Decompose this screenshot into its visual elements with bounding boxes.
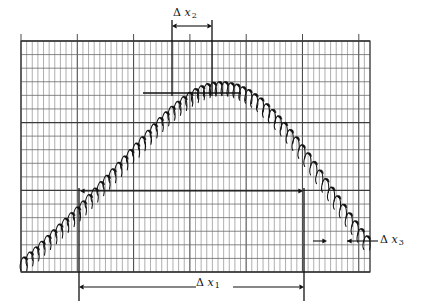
var-symbol-x1: x [207,276,214,289]
delta-symbol-x1: Δ [196,276,204,289]
var-symbol-x3: x [391,233,398,246]
measurement-annotations [79,20,378,301]
chart-area [0,0,426,306]
var-symbol-x2: x [184,6,191,19]
figure-root: Δx2 Δx1 Δx3 [0,0,426,306]
subscript-x1: 1 [215,281,221,290]
delta-symbol-x3: Δ [380,233,388,246]
subscript-x2: 2 [192,11,198,20]
label-delta-x2: Δx2 [173,6,197,20]
chart-canvas [0,0,426,306]
label-delta-x1: Δx1 [196,276,220,290]
label-delta-x3: Δx3 [380,233,404,247]
top-tick-marks [21,34,359,41]
delta-symbol-x2: Δ [173,6,181,19]
grid-fine-vertical [27,41,370,272]
subscript-x3: 3 [399,238,405,247]
